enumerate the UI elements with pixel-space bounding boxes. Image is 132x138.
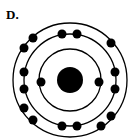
electron — [107, 112, 116, 121]
electron — [58, 30, 67, 39]
electron — [37, 78, 46, 87]
electron — [111, 68, 120, 77]
electron — [20, 44, 29, 53]
electron — [58, 122, 67, 131]
electron — [73, 122, 82, 131]
electron — [107, 39, 116, 48]
bohr-atom-diagram — [0, 0, 132, 138]
electron — [29, 34, 38, 43]
electron — [97, 122, 106, 131]
electron — [73, 30, 82, 39]
electron — [29, 116, 38, 125]
electron — [20, 104, 29, 113]
nucleus — [57, 67, 83, 93]
electron — [20, 68, 29, 77]
electron — [111, 85, 120, 94]
electron — [20, 85, 29, 94]
electron — [95, 78, 104, 87]
